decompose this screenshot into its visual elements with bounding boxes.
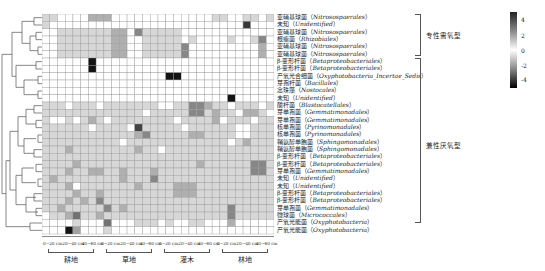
heatmap-cell <box>228 161 236 168</box>
heatmap-cell <box>96 102 104 109</box>
heatmap-cell <box>173 29 181 36</box>
heatmap-cell <box>259 190 267 197</box>
heatmap-cell <box>266 58 274 65</box>
heatmap-cell <box>181 219 189 226</box>
heatmap-cell <box>57 43 65 50</box>
heatmap-cell <box>181 21 189 28</box>
heatmap-cell <box>259 29 267 36</box>
heatmap-cell <box>197 58 205 65</box>
heatmap-cell <box>143 65 151 72</box>
heatmap-cell <box>88 175 96 182</box>
heatmap-cell <box>166 117 174 124</box>
heatmap-cell <box>251 205 259 212</box>
heatmap-cell <box>243 36 251 43</box>
heatmap-cell <box>220 87 228 94</box>
heatmap-cell <box>197 227 205 234</box>
heatmap-cell <box>50 65 58 72</box>
heatmap-cell <box>42 65 50 72</box>
heatmap-cell <box>65 146 73 153</box>
heatmap-cell <box>204 139 212 146</box>
heatmap-cell <box>42 21 50 28</box>
heatmap-cell <box>212 58 220 65</box>
heatmap-cell <box>173 95 181 102</box>
heatmap-cell <box>266 51 274 58</box>
heatmap-cell <box>143 131 151 138</box>
heatmap-cell <box>57 161 65 168</box>
heatmap-cell <box>104 183 112 190</box>
heatmap-cell <box>189 95 197 102</box>
heatmap-cell <box>50 146 58 153</box>
heatmap-cell <box>135 109 143 116</box>
heatmap-cell <box>50 14 58 21</box>
heatmap-cell <box>251 29 259 36</box>
heatmap-cell <box>228 43 236 50</box>
heatmap-cell <box>166 153 174 160</box>
heatmap-cell <box>57 51 65 58</box>
heatmap-cell <box>150 131 158 138</box>
heatmap-cell <box>204 80 212 87</box>
heatmap-cell <box>127 227 135 234</box>
heatmap-cell <box>135 146 143 153</box>
heatmap-cell <box>150 124 158 131</box>
heatmap-cell <box>173 43 181 50</box>
heatmap-cell <box>197 124 205 131</box>
brace-label-obligate-aerobe: 专性需氧型 <box>426 30 461 40</box>
heatmap-cell <box>197 117 205 124</box>
heatmap-cell <box>57 219 65 226</box>
heatmap-cell <box>112 124 120 131</box>
heatmap-cell <box>50 29 58 36</box>
heatmap-cell <box>96 153 104 160</box>
heatmap-cell <box>88 21 96 28</box>
heatmap-cell <box>266 29 274 36</box>
heatmap-cell <box>158 21 166 28</box>
heatmap-cell <box>143 175 151 182</box>
heatmap-cell <box>189 87 197 94</box>
heatmap-cell <box>65 43 73 50</box>
heatmap-cell <box>119 117 127 124</box>
heatmap-cell <box>96 131 104 138</box>
heatmap-cell <box>150 197 158 204</box>
heatmap-cell <box>81 153 89 160</box>
x-tick-label: 0~20 cm <box>43 241 62 246</box>
heatmap-cell <box>220 80 228 87</box>
heatmap-cell <box>65 87 73 94</box>
heatmap-cell <box>150 51 158 58</box>
heatmap-cell <box>143 117 151 124</box>
heatmap-cell <box>150 219 158 226</box>
heatmap-cell <box>259 153 267 160</box>
heatmap-cell <box>158 109 166 116</box>
heatmap-cell <box>235 102 243 109</box>
heatmap-cell <box>65 139 73 146</box>
heatmap-cell <box>50 212 58 219</box>
heatmap-cell <box>259 109 267 116</box>
heatmap-cell <box>88 227 96 234</box>
heatmap-cell <box>235 139 243 146</box>
heatmap-cell <box>259 51 267 58</box>
heatmap-cell <box>127 153 135 160</box>
heatmap-cell <box>135 80 143 87</box>
heatmap-cell <box>259 227 267 234</box>
heatmap-cell <box>50 117 58 124</box>
heatmap-cell <box>81 51 89 58</box>
heatmap-cell <box>57 212 65 219</box>
heatmap-cell <box>42 43 50 50</box>
heatmap-cell <box>158 161 166 168</box>
heatmap-cell <box>143 73 151 80</box>
heatmap-cell <box>173 175 181 182</box>
heatmap-cell <box>158 87 166 94</box>
heatmap-cell <box>212 153 220 160</box>
heatmap-cell <box>65 131 73 138</box>
heatmap-cell <box>65 95 73 102</box>
heatmap-cell <box>57 73 65 80</box>
heatmap-cell <box>197 95 205 102</box>
heatmap-cell <box>197 87 205 94</box>
colorbar-tick: 4 <box>521 16 525 23</box>
heatmap-cell <box>96 95 104 102</box>
heatmap-cell <box>166 43 174 50</box>
heatmap-cell <box>189 124 197 131</box>
heatmap-cell <box>235 131 243 138</box>
heatmap-cell <box>112 161 120 168</box>
heatmap-cell <box>251 227 259 234</box>
heatmap-cell <box>181 146 189 153</box>
heatmap-cell <box>57 131 65 138</box>
